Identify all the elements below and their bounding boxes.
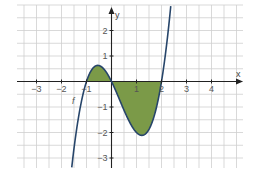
- y-axis-label: y: [115, 10, 120, 20]
- x-tick-label: 4: [209, 84, 214, 94]
- x-tick-label: −2: [56, 84, 66, 94]
- y-tick-label: −1: [97, 102, 107, 112]
- function-label: f: [72, 96, 76, 106]
- x-tick-label: 2: [159, 84, 164, 94]
- x-tick-label: 3: [184, 84, 189, 94]
- x-axis-label: x: [236, 69, 241, 79]
- x-tick-label: −3: [31, 84, 41, 94]
- y-tick-label: 2: [102, 26, 107, 36]
- x-tick-label: 1: [134, 84, 139, 94]
- y-tick-label: 1: [102, 51, 107, 61]
- y-tick-label: −2: [97, 128, 107, 138]
- x-tick-label: −1: [81, 84, 91, 94]
- x-axis-arrow-icon: [236, 79, 243, 85]
- y-tick-label: −3: [97, 153, 107, 163]
- function-graph: −3−2−11234−3−2−112 x y f: [0, 0, 262, 181]
- y-axis-arrow-icon: [109, 7, 115, 14]
